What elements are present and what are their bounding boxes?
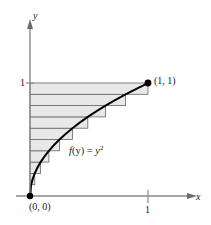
function-exponent: 2 [100,144,104,152]
y-axis-label: y [33,11,37,21]
figure-container: y x 1 1 (0, 0) (1, 1) f(y) = y2 [0,0,211,225]
approximating-rectangle [30,106,106,117]
origin-point-label: (0, 0) [29,202,51,212]
end-point-label: (1, 1) [154,76,176,86]
origin-point-marker [27,193,33,199]
y-tick-label-1: 1 [20,78,25,88]
x-tick-label-1: 1 [145,205,150,215]
plot-canvas [0,0,211,225]
approximating-rectangle [30,94,126,105]
function-equation-label: f(y) = y2 [69,146,104,157]
function-arg: (y) = [72,145,95,156]
end-point-marker [145,80,152,87]
approximating-rectangle [30,151,49,162]
x-axis-label: x [196,192,200,202]
approximating-rectangles [30,83,148,196]
